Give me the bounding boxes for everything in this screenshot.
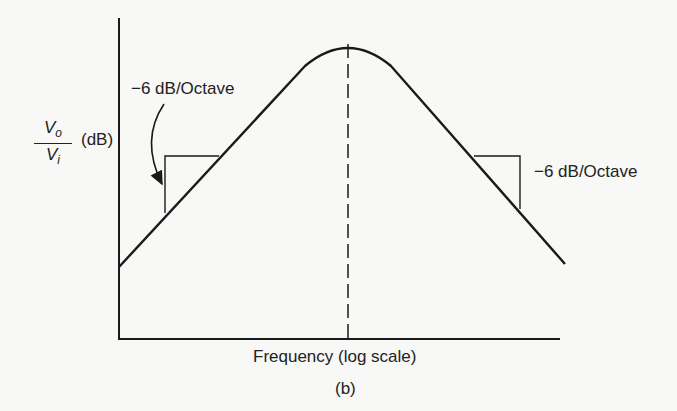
annotation-arrow	[151, 104, 164, 184]
y-axis-label: Vo Vi	[34, 118, 72, 172]
right-slope-triangle	[474, 156, 520, 209]
left-slope-triangle	[165, 156, 219, 213]
y-axis-unit: (dB)	[81, 130, 113, 150]
figure-caption: (b)	[335, 379, 356, 399]
left-slope-annotation: −6 dB/Octave	[131, 79, 234, 99]
x-axis-label: Frequency (log scale)	[253, 347, 416, 367]
right-slope-annotation: −6 dB/Octave	[534, 162, 637, 182]
